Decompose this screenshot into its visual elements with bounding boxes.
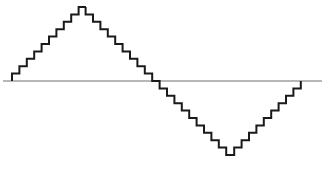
stepped-sine-diagram [0, 0, 324, 170]
background [0, 0, 324, 170]
